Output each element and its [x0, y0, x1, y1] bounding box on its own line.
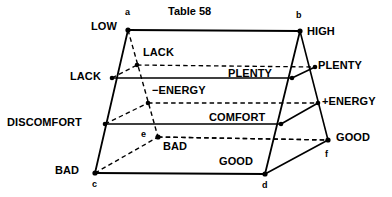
- oblique-connectors-right: [281, 67, 318, 124]
- rung-lack-plenty-hidden: [137, 65, 315, 67]
- dot-plenty-front: [290, 76, 295, 81]
- label-vertex-f: f: [325, 150, 328, 159]
- label-lack-left: LACK: [70, 71, 101, 82]
- label-vertex-e: e: [141, 130, 146, 139]
- edge-d-f: [265, 140, 328, 174]
- dot-lack-rear: [135, 63, 140, 68]
- label-inner-bad: BAD: [163, 141, 187, 152]
- label-neg-energy: −ENERGY: [152, 85, 206, 96]
- dot-lack-front: [110, 76, 115, 81]
- edge-a-c: [95, 30, 128, 173]
- dot-c: [92, 170, 97, 175]
- label-plenty-inner: PLENTY: [228, 68, 272, 79]
- edge-c-d: [95, 173, 265, 174]
- label-plenty-right: PLENTY: [318, 60, 362, 71]
- label-low: LOW: [91, 21, 117, 32]
- dot-e: [155, 134, 160, 139]
- label-discomfort: DISCOMFORT: [7, 117, 82, 128]
- label-inner-lack: LACK: [143, 47, 174, 58]
- dot-energy-rear: [146, 101, 151, 106]
- connector-comfort: [281, 103, 318, 124]
- dot-a: [125, 27, 130, 32]
- rear-edges-dashed: [95, 30, 328, 173]
- dot-plenty-rear: [313, 65, 318, 70]
- oblique-connectors-left: [105, 65, 148, 124]
- dot-b: [297, 28, 302, 33]
- edge-b-f: [300, 31, 328, 140]
- label-pos-energy: +ENERGY: [322, 96, 376, 107]
- label-vertex-a: a: [125, 8, 130, 17]
- dot-f: [325, 137, 330, 142]
- label-inner-good: GOOD: [219, 156, 253, 167]
- label-comfort: COMFORT: [209, 112, 265, 123]
- label-bad-left: BAD: [55, 165, 79, 176]
- dot-comfort-front: [279, 122, 284, 127]
- figure-root: Table 58LOWHIGHLACKLACKPLENTYPLENTY−ENER…: [0, 0, 392, 197]
- label-good-right: GOOD: [336, 132, 370, 143]
- label-high: HIGH: [307, 26, 335, 37]
- connector-discomfort: [105, 103, 148, 124]
- dot-discomfort-front: [103, 122, 108, 127]
- front-face-outline: [95, 30, 300, 174]
- connector-lack: [112, 65, 137, 78]
- label-vertex-b: b: [296, 11, 302, 20]
- label-vertex-d: d: [262, 181, 268, 190]
- edge-c-e: [95, 137, 158, 173]
- edge-a-b: [128, 30, 300, 31]
- dot-d: [262, 171, 267, 176]
- label-title: Table 58: [168, 6, 211, 17]
- label-vertex-c: c: [92, 180, 97, 189]
- dot-energy-right: [316, 101, 321, 106]
